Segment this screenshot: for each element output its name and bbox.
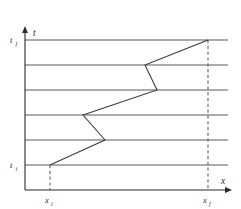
t-final-tick-label: t f [10, 35, 19, 47]
x-final-tick-label: x f [202, 195, 212, 207]
x-final-base: x [202, 195, 207, 205]
t-initial-base: t [10, 160, 13, 170]
t-final-subscript: f [16, 41, 19, 47]
x-initial-tick-label: x i [44, 195, 53, 207]
t-axis-arrow-icon [22, 26, 28, 33]
x-final-subscript: f [209, 201, 212, 207]
x-initial-base: x [44, 195, 49, 205]
diagram-canvas: t x t f t i x i x f [0, 0, 241, 209]
t-final-base: t [10, 35, 13, 45]
t-axis-label: t [33, 28, 36, 38]
x-axis-arrow-icon [225, 187, 232, 193]
axis-group [22, 26, 232, 193]
t-initial-tick-label: t i [10, 160, 18, 172]
particle-worldline [50, 40, 208, 165]
x-initial-subscript: i [51, 201, 53, 207]
x-axis-label: x [220, 176, 226, 186]
spacetime-diagram-figure: t x t f t i x i x f [0, 0, 241, 209]
t-initial-subscript: i [16, 166, 18, 172]
time-slice-group [25, 40, 228, 165]
